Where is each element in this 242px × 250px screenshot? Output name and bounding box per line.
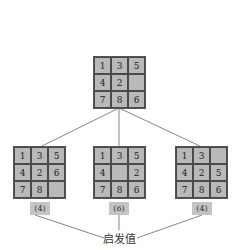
tile: 7 xyxy=(176,181,193,198)
tile: 1 xyxy=(14,147,31,164)
root-puzzle-grid: 1 3 5 4 2 7 8 6 xyxy=(94,57,145,108)
tile: 6 xyxy=(128,181,145,198)
tile: 8 xyxy=(111,181,128,198)
tile: 2 xyxy=(111,74,128,91)
tile: 2 xyxy=(128,164,145,181)
tile: 8 xyxy=(111,91,128,108)
tile: 5 xyxy=(48,147,65,164)
tile: 3 xyxy=(31,147,48,164)
tile: 7 xyxy=(14,181,31,198)
tile: 5 xyxy=(128,57,145,74)
tile-blank xyxy=(48,181,65,198)
child-puzzle-grid-middle: 1 3 5 4 2 7 8 6 xyxy=(94,147,145,198)
tile: 4 xyxy=(94,74,111,91)
tile: 8 xyxy=(31,181,48,198)
tile: 1 xyxy=(94,147,111,164)
tile-blank xyxy=(210,147,227,164)
tile: 7 xyxy=(94,91,111,108)
tile: 4 xyxy=(94,164,111,181)
tile: 6 xyxy=(48,164,65,181)
tile: 6 xyxy=(128,91,145,108)
tile: 6 xyxy=(210,181,227,198)
child-puzzle-grid-left: 1 3 5 4 2 6 7 8 xyxy=(14,147,65,198)
tile: 4 xyxy=(14,164,31,181)
tile: 8 xyxy=(193,181,210,198)
tile: 7 xyxy=(94,181,111,198)
heuristic-value-middle: (6) xyxy=(109,202,129,215)
heuristic-value-left: (4) xyxy=(30,202,50,215)
tile: 2 xyxy=(31,164,48,181)
tile: 4 xyxy=(176,164,193,181)
tile: 2 xyxy=(193,164,210,181)
tile: 5 xyxy=(128,147,145,164)
tile: 1 xyxy=(176,147,193,164)
tile: 1 xyxy=(94,57,111,74)
tile: 3 xyxy=(111,57,128,74)
tile: 5 xyxy=(210,164,227,181)
tile: 3 xyxy=(193,147,210,164)
tile: 3 xyxy=(111,147,128,164)
tile-blank xyxy=(128,74,145,91)
child-puzzle-grid-right: 1 3 4 2 5 7 8 6 xyxy=(176,147,227,198)
tile-blank xyxy=(111,164,128,181)
heuristic-value-right: (4) xyxy=(192,202,212,215)
heuristic-caption: 启发值 xyxy=(103,230,136,246)
